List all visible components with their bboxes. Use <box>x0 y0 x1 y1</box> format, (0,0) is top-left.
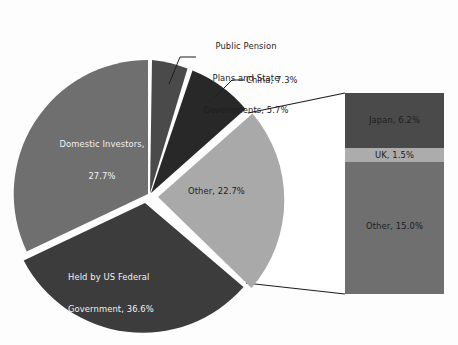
breakout-bar <box>345 93 444 294</box>
bar-segment-uk[interactable] <box>345 148 444 162</box>
pie-chart-figure: Public Pension Plans and State Governmen… <box>0 0 458 345</box>
bar-segment-other[interactable] <box>345 162 444 294</box>
chart-canvas <box>0 0 458 345</box>
pie <box>14 60 285 333</box>
bar-segment-japan[interactable] <box>345 93 444 148</box>
